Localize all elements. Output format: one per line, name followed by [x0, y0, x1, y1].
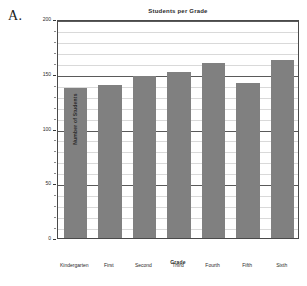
y-tick-mark [54, 64, 56, 65]
y-tick-mark [54, 108, 56, 109]
y-tick-mark [54, 97, 56, 98]
bar [167, 72, 191, 238]
y-tick-mark [53, 130, 56, 131]
y-tick-mark [54, 151, 56, 152]
y-tick-mark [54, 173, 56, 174]
bar-chart: 050100150200 Number of Students Kinderga… [57, 20, 299, 239]
bar [236, 83, 260, 238]
x-axis-label: Grade [57, 259, 299, 265]
y-tick-mark [54, 31, 56, 32]
bar [271, 60, 295, 238]
y-tick-mark [54, 140, 56, 141]
y-axis-label: Number of Students [72, 59, 78, 179]
y-tick-mark [54, 206, 56, 207]
y-tick-label: 150 [21, 72, 51, 77]
bar-series [58, 21, 298, 238]
plot-frame [57, 20, 299, 239]
y-tick-mark [54, 119, 56, 120]
y-tick-mark [54, 217, 56, 218]
y-tick-mark [53, 75, 56, 76]
y-tick-mark [54, 42, 56, 43]
bar [202, 63, 226, 238]
y-tick-mark [53, 239, 56, 240]
y-tick-label: 0 [21, 236, 51, 241]
bar [98, 85, 122, 238]
figure: A. Students per Grade 050100150200 Numbe… [0, 0, 307, 286]
y-tick-mark [54, 195, 56, 196]
chart-title: Students per Grade [57, 8, 299, 14]
y-tick-label: 100 [21, 127, 51, 132]
y-tick-mark [54, 162, 56, 163]
y-tick-mark [54, 53, 56, 54]
bar [133, 76, 157, 238]
y-tick-mark [53, 20, 56, 21]
y-tick-mark [53, 184, 56, 185]
y-tick-mark [54, 86, 56, 87]
y-tick-label: 50 [21, 181, 51, 186]
y-tick-label: 200 [21, 17, 51, 22]
y-tick-mark [54, 228, 56, 229]
